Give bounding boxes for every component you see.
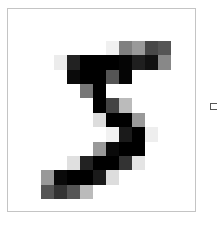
- pixel-cell: [132, 156, 145, 170]
- pixel-cell: [67, 70, 80, 84]
- pixel-cell: [145, 170, 158, 184]
- pixel-cell: [67, 127, 80, 141]
- pixel-cell: [132, 113, 145, 127]
- pixel-cell: [54, 41, 67, 55]
- pixel-cell: [67, 170, 80, 184]
- pixel-cell: [158, 55, 171, 69]
- pixel-cell: [132, 70, 145, 84]
- pixel-cell: [158, 70, 171, 84]
- pixel-cell: [54, 113, 67, 127]
- pixel-cell: [145, 185, 158, 199]
- pixel-cell: [41, 41, 54, 55]
- pixel-cell: [80, 127, 93, 141]
- pixel-cell: [67, 142, 80, 156]
- pixel-cell: [106, 55, 119, 69]
- pixel-cell: [119, 70, 132, 84]
- pixel-cell: [132, 55, 145, 69]
- pixel-cell: [67, 84, 80, 98]
- pixel-cell: [41, 142, 54, 156]
- pixel-cell: [145, 156, 158, 170]
- pixel-cell: [41, 84, 54, 98]
- pixel-cell: [106, 84, 119, 98]
- pixel-cell: [54, 98, 67, 112]
- pixel-cell: [67, 156, 80, 170]
- pixel-cell: [106, 113, 119, 127]
- pixel-cell: [106, 70, 119, 84]
- pixel-cell: [54, 156, 67, 170]
- pixel-cell: [158, 127, 171, 141]
- pixel-cell: [54, 84, 67, 98]
- pixel-cell: [41, 127, 54, 141]
- pixel-cell: [67, 98, 80, 112]
- pixel-cell: [106, 98, 119, 112]
- pixel-cell: [41, 185, 54, 199]
- pixel-cell: [54, 70, 67, 84]
- pixel-cell: [80, 156, 93, 170]
- digit-pixel-grid: [41, 41, 171, 199]
- pixel-cell: [80, 55, 93, 69]
- pixel-cell: [93, 127, 106, 141]
- pixel-cell: [132, 127, 145, 141]
- pixel-cell: [41, 70, 54, 84]
- pixel-cell: [93, 70, 106, 84]
- pixel-cell: [93, 41, 106, 55]
- pixel-cell: [106, 41, 119, 55]
- pixel-cell: [145, 98, 158, 112]
- pixel-cell: [119, 142, 132, 156]
- pixel-cell: [145, 84, 158, 98]
- pixel-cell: [41, 98, 54, 112]
- pixel-cell: [106, 170, 119, 184]
- pixel-cell: [93, 84, 106, 98]
- pixel-cell: [119, 55, 132, 69]
- pixel-cell: [132, 185, 145, 199]
- pixel-cell: [132, 84, 145, 98]
- pixel-cell: [119, 41, 132, 55]
- pixel-cell: [158, 84, 171, 98]
- pixel-cell: [145, 142, 158, 156]
- pixel-cell: [67, 113, 80, 127]
- selection-checkbox[interactable]: [210, 103, 217, 110]
- pixel-cell: [145, 70, 158, 84]
- pixel-cell: [67, 185, 80, 199]
- pixel-cell: [93, 170, 106, 184]
- pixel-cell: [158, 170, 171, 184]
- pixel-cell: [145, 127, 158, 141]
- pixel-cell: [106, 142, 119, 156]
- pixel-cell: [93, 185, 106, 199]
- pixel-cell: [41, 170, 54, 184]
- pixel-cell: [54, 127, 67, 141]
- pixel-cell: [67, 41, 80, 55]
- pixel-cell: [158, 156, 171, 170]
- pixel-cell: [93, 142, 106, 156]
- pixel-cell: [145, 113, 158, 127]
- pixel-cell: [158, 185, 171, 199]
- pixel-cell: [93, 55, 106, 69]
- pixel-cell: [158, 113, 171, 127]
- pixel-cell: [67, 55, 80, 69]
- pixel-cell: [119, 113, 132, 127]
- pixel-cell: [158, 41, 171, 55]
- pixel-cell: [119, 156, 132, 170]
- pixel-cell: [54, 170, 67, 184]
- pixel-cell: [54, 55, 67, 69]
- pixel-cell: [80, 41, 93, 55]
- pixel-cell: [54, 142, 67, 156]
- pixel-cell: [132, 41, 145, 55]
- pixel-cell: [106, 185, 119, 199]
- pixel-cell: [41, 113, 54, 127]
- pixel-cell: [80, 142, 93, 156]
- pixel-cell: [158, 142, 171, 156]
- pixel-cell: [145, 55, 158, 69]
- pixel-cell: [119, 84, 132, 98]
- pixel-cell: [106, 156, 119, 170]
- pixel-cell: [80, 185, 93, 199]
- pixel-cell: [41, 156, 54, 170]
- pixel-cell: [132, 98, 145, 112]
- pixel-cell: [93, 156, 106, 170]
- pixel-cell: [119, 98, 132, 112]
- pixel-cell: [119, 170, 132, 184]
- pixel-cell: [132, 170, 145, 184]
- pixel-cell: [158, 98, 171, 112]
- pixel-cell: [80, 70, 93, 84]
- pixel-cell: [54, 185, 67, 199]
